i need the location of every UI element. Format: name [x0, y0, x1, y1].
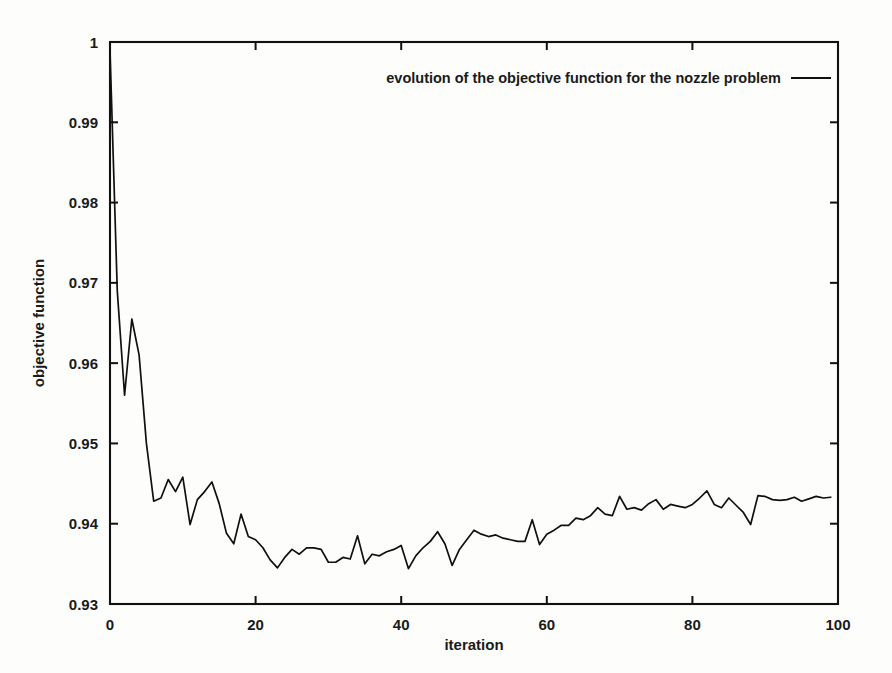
x-tick-label: 0 [106, 616, 114, 633]
y-tick-label: 0.94 [69, 515, 99, 532]
legend: evolution of the objective function for … [386, 70, 831, 86]
x-tick-label: 80 [684, 616, 701, 633]
y-tick-label: 1 [90, 34, 98, 51]
y-tick-label: 0.95 [69, 435, 98, 452]
x-tick-label: 100 [825, 616, 850, 633]
chart-figure: 0.930.940.950.960.970.980.991 0204060801… [0, 0, 892, 673]
y-tick-label: 0.97 [69, 274, 98, 291]
y-tick-label: 0.93 [69, 596, 98, 613]
y-axis-title: objective function [30, 259, 47, 387]
y-tick-label: 0.99 [69, 114, 98, 131]
y-tick-label: 0.98 [69, 194, 98, 211]
line-chart: 0.930.940.950.960.970.980.991 0204060801… [0, 0, 892, 673]
x-axis-title: iteration [444, 636, 503, 653]
legend-entry-label: evolution of the objective function for … [386, 70, 781, 86]
y-tick-label: 0.96 [69, 355, 98, 372]
x-tick-label: 20 [247, 616, 264, 633]
x-tick-label: 60 [538, 616, 555, 633]
x-tick-label: 40 [393, 616, 410, 633]
chart-background [0, 0, 892, 673]
